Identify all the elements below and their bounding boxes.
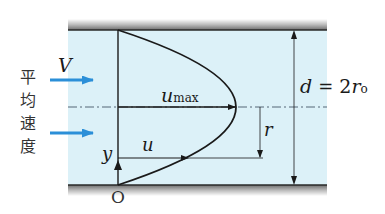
diameter-coef: 2: [339, 75, 351, 97]
mean-velocity-label: V: [58, 56, 72, 75]
r-label: r: [264, 121, 273, 139]
top-wall: [68, 19, 327, 30]
diameter-label: d = 2ro: [300, 77, 368, 96]
mean-velocity-char-3: 速: [18, 116, 38, 132]
origin-label: O: [111, 189, 125, 206]
diameter-var: r: [351, 75, 360, 97]
umax-label-base: u: [161, 84, 173, 106]
diameter-lhs: d: [300, 75, 312, 97]
bottom-wall: [68, 185, 327, 196]
pipe-flow-diagram: [0, 0, 385, 214]
mean-velocity-char-2: 均: [18, 93, 38, 109]
umax-label-sub: max: [173, 91, 198, 105]
umax-label: umax: [161, 86, 199, 105]
y-axis-label: y: [102, 145, 112, 163]
diameter-sub: o: [361, 82, 368, 96]
diameter-eq: =: [318, 76, 333, 97]
u-label: u: [142, 136, 154, 154]
mean-velocity-char-1: 平: [18, 70, 38, 86]
mean-velocity-char-4: 度: [18, 139, 38, 155]
